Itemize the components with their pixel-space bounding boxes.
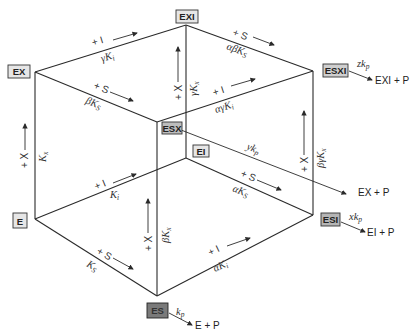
constant-ei-exi: γKx (188, 81, 201, 96)
constant-e-ei: Ki (109, 189, 119, 202)
product-esx: EX + P (358, 187, 390, 198)
product-labels: EXI + P EX + P EI + P E + P (195, 75, 410, 331)
svg-text:ESXI: ESXI (325, 65, 347, 76)
constant-ex-exi: γKi (99, 50, 115, 66)
reagent-es-esi: + I (206, 243, 221, 258)
arrow-e-ei (113, 174, 136, 183)
species-ESXI: ESXI (323, 64, 348, 77)
rate-labels: zkp ykp xkp kp (176, 58, 370, 319)
reagent-es-esx: + X (143, 235, 154, 251)
reagent-labels: + I + S + S + I + X + X + X + X + I + S … (19, 27, 310, 263)
edge-e-es (35, 219, 157, 296)
svg-text:EI: EI (197, 146, 206, 157)
reagent-e-es: + S (95, 245, 114, 262)
svg-text:EX: EX (13, 66, 26, 77)
constant-e-es: KS (83, 258, 100, 275)
arrow-esxi-product (349, 71, 372, 80)
species-E: E (13, 213, 27, 228)
species-ESI: ESI (321, 213, 340, 226)
reagent-e-ei: + I (93, 177, 108, 191)
arrow-ex-exi (113, 33, 137, 40)
cube-edges (35, 25, 313, 296)
constant-ex-esx: βKS (83, 94, 104, 113)
reagent-ei-esi: + S (239, 168, 258, 184)
reagent-e-ex: + X (19, 152, 30, 168)
edge-ei-esi (186, 158, 313, 215)
product-esi: EI + P (367, 227, 395, 238)
svg-text:ESX: ESX (162, 123, 182, 134)
arrow-es-esi (227, 238, 250, 246)
species-ES: ES (147, 303, 168, 318)
constant-e-ex: Kx (37, 151, 50, 163)
rate-esxi: zkp (356, 58, 370, 71)
species-ESX: ESX (162, 122, 182, 134)
product-es: E + P (195, 320, 220, 331)
reagent-ex-exi: + I (90, 34, 104, 48)
species-EX: EX (8, 65, 30, 78)
product-esxi: EXI + P (375, 75, 410, 86)
arrow-ei-esi (257, 180, 281, 190)
reagent-ex-esx: + S (92, 80, 111, 96)
species-EXI: EXI (176, 10, 198, 23)
arrow-exi-esxi (253, 37, 274, 45)
constant-es-esx: βKx (160, 227, 173, 244)
catalysis-arrows (169, 71, 372, 325)
kinetic-cube-diagram: E EX EXI ESX ESXI EI ESI ES + I + S + S … (0, 0, 412, 335)
reagent-esi-esxi: + X (299, 156, 310, 172)
arrow-esx-esxi (231, 79, 255, 86)
constant-exi-esxi: αβKS (225, 41, 250, 61)
reagent-esx-esxi: + I (211, 84, 225, 98)
edge-es-esi (157, 215, 313, 296)
constant-es-esi: αKi (211, 258, 230, 276)
species-EI: EI (193, 145, 209, 157)
reagent-ei-exi: + X (173, 84, 184, 100)
edge-ex-exi (35, 25, 186, 72)
arrow-e-es (113, 258, 133, 269)
arrow-ex-esx (110, 92, 133, 101)
svg-text:ES: ES (151, 305, 164, 316)
edge-exi-esxi (186, 25, 313, 71)
svg-text:EXI: EXI (179, 11, 194, 22)
reagent-exi-esxi: + S (231, 27, 249, 43)
constant-esi-esxi: βγKx (315, 148, 328, 169)
svg-text:ESI: ESI (323, 214, 338, 225)
constant-labels: γKi αβKS βKS αγKi Kx γKx βγKx βKx Ki αKS… (37, 41, 328, 276)
rate-esi: xkp (348, 211, 362, 224)
svg-text:E: E (17, 216, 23, 227)
constant-esx-esxi: αγKi (213, 99, 235, 117)
